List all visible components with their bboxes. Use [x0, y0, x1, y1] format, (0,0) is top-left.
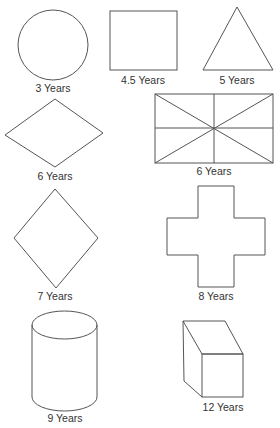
- circle-label: 3 Years: [35, 83, 70, 94]
- rectangular-prism-shape: [183, 321, 243, 397]
- shapes-canvas: [0, 0, 280, 428]
- horizontal-rhombus-label: 6 Years: [37, 171, 72, 182]
- divided-rectangle-label: 6 Years: [196, 166, 231, 177]
- cylinder-label: 9 Years: [47, 413, 82, 424]
- triangle-label: 5 Years: [219, 75, 254, 86]
- cylinder-shape: [32, 311, 97, 411]
- vertical-diamond-label: 7 Years: [37, 291, 72, 302]
- horizontal-rhombus-shape: [5, 99, 103, 167]
- vertical-diamond-shape: [14, 189, 98, 288]
- rectangular-prism-label: 12 Years: [203, 402, 244, 413]
- square-label: 4.5 Years: [121, 75, 165, 86]
- cross-shape: [167, 186, 265, 287]
- square-shape: [110, 11, 177, 70]
- divided-rectangle-shape: [155, 94, 273, 163]
- circle-shape: [18, 10, 88, 80]
- cross-label: 8 Years: [198, 291, 233, 302]
- triangle-shape: [203, 7, 273, 70]
